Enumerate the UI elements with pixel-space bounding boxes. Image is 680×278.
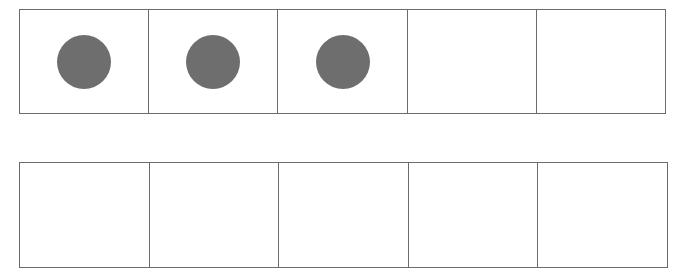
frame-cell [278,10,407,113]
counter-dot-icon [186,35,240,89]
ten-frame-bottom-row [19,162,668,268]
frame-cell [149,10,278,113]
frame-cell [150,163,280,267]
frame-cell [409,163,539,267]
frame-cell [20,163,150,267]
counter-dot-icon [57,35,111,89]
frame-cell [20,10,149,113]
frame-cell [279,163,409,267]
frame-cell [537,10,665,113]
ten-frame-top-row [19,9,666,114]
frame-cell [538,163,667,267]
frame-cell [408,10,537,113]
counter-dot-icon [316,35,370,89]
